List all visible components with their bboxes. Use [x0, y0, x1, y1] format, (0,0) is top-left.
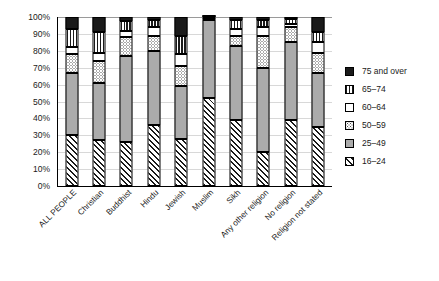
bar-segment	[65, 29, 78, 47]
bar-segment	[65, 17, 78, 29]
bar-segment	[312, 17, 325, 32]
stacked-bar[interactable]	[230, 17, 243, 186]
bar-segment	[147, 51, 160, 125]
stacked-bar[interactable]	[93, 17, 106, 186]
bar-slot	[305, 17, 332, 186]
y-axis-tick-label: 100%	[28, 13, 50, 22]
stacked-bar[interactable]	[120, 17, 133, 186]
bar-segment	[93, 83, 106, 140]
legend-swatch-icon	[345, 139, 354, 148]
stacked-bar-chart: 0%10%20%30%40%50%60%70%80%90%100% ALL PE…	[0, 0, 439, 281]
bar-segment	[284, 24, 297, 27]
legend-item[interactable]: 50–59	[345, 116, 439, 134]
stacked-bar[interactable]	[284, 17, 297, 186]
bar-segment	[312, 32, 325, 42]
bar-segment	[93, 53, 106, 61]
legend-item-label: 16–24	[362, 157, 386, 166]
bar-segment	[284, 19, 297, 24]
bar-segment	[65, 73, 78, 136]
y-axis-tick-label: 30%	[33, 131, 50, 140]
stacked-bar[interactable]	[65, 17, 78, 186]
stacked-bar[interactable]	[147, 17, 160, 186]
y-axis-tick-label: 90%	[33, 30, 50, 39]
bar-segment	[93, 61, 106, 83]
bar-segment	[312, 127, 325, 186]
y-axis-tick-label: 20%	[33, 148, 50, 157]
bar-segment	[175, 36, 188, 55]
y-axis-tick-label: 50%	[33, 97, 50, 106]
bar-slot	[250, 17, 277, 186]
x-axis: ALL PEOPLEChristianBuddhistHinduJewishMu…	[58, 188, 332, 280]
bar-segment	[147, 20, 160, 28]
legend-item[interactable]: 16–24	[345, 152, 439, 170]
stacked-bar[interactable]	[175, 17, 188, 186]
bar-segment	[312, 53, 325, 73]
legend-item-label: 25–49	[362, 139, 386, 148]
bar-segment	[202, 20, 215, 98]
bar-segment	[202, 15, 215, 17]
bar-segment	[257, 27, 270, 35]
bar-segment	[175, 66, 188, 86]
x-axis-tick-label: ALL PEOPLE	[0, 188, 78, 281]
bar-segment	[284, 27, 297, 42]
bar-segment	[65, 47, 78, 55]
bar-segment	[284, 120, 297, 186]
bar-slot	[85, 17, 112, 186]
legend-swatch-icon	[345, 85, 354, 94]
bar-segment	[65, 135, 78, 186]
bar-slot	[140, 17, 167, 186]
legend-swatch-icon	[345, 157, 354, 166]
bar-segment	[202, 98, 215, 186]
legend-item-label: 50–59	[362, 121, 386, 130]
stacked-bar[interactable]	[257, 17, 270, 186]
stacked-bar[interactable]	[202, 17, 215, 186]
legend-item[interactable]: 75 and over	[345, 62, 439, 80]
bar-segment	[257, 68, 270, 153]
chart-legend: 75 and over65–7460–6450–5925–4916–24	[345, 62, 439, 170]
bar-segment	[120, 142, 133, 186]
bar-segment	[93, 140, 106, 186]
bar-segment	[257, 20, 270, 28]
legend-item[interactable]: 25–49	[345, 134, 439, 152]
legend-swatch-icon	[345, 67, 354, 76]
bar-segment	[147, 125, 160, 186]
bar-segment	[65, 54, 78, 73]
bar-segment	[230, 29, 243, 36]
bar-segment	[147, 36, 160, 51]
y-axis-tick-label: 80%	[33, 47, 50, 56]
bar-segment	[312, 42, 325, 52]
bar-segment	[230, 17, 243, 20]
bar-group	[58, 17, 332, 186]
bar-segment	[120, 21, 133, 30]
stacked-bar[interactable]	[312, 17, 325, 186]
legend-item[interactable]: 65–74	[345, 80, 439, 98]
y-axis: 0%10%20%30%40%50%60%70%80%90%100%	[0, 17, 55, 187]
bar-slot	[277, 17, 304, 186]
bar-segment	[120, 37, 133, 56]
bar-segment	[147, 17, 160, 20]
bar-segment	[312, 73, 325, 127]
bar-segment	[175, 17, 188, 36]
legend-item-label: 65–74	[362, 85, 386, 94]
bar-segment	[284, 17, 297, 19]
bar-segment	[257, 17, 270, 20]
y-axis-tick-label: 40%	[33, 114, 50, 123]
bar-slot	[168, 17, 195, 186]
bar-segment	[175, 86, 188, 138]
legend-item[interactable]: 60–64	[345, 98, 439, 116]
bar-slot	[58, 17, 85, 186]
bar-segment	[147, 27, 160, 35]
y-axis-tick-label: 60%	[33, 80, 50, 89]
bar-segment	[230, 120, 243, 186]
legend-swatch-icon	[345, 121, 354, 130]
y-axis-tick-label: 0%	[38, 182, 50, 191]
bar-segment	[257, 152, 270, 186]
bar-segment	[93, 17, 106, 32]
bar-segment	[284, 42, 297, 120]
bar-slot	[195, 17, 222, 186]
bar-segment	[230, 20, 243, 29]
legend-item-label: 75 and over	[362, 67, 407, 76]
legend-swatch-icon	[345, 103, 354, 112]
bar-slot	[113, 17, 140, 186]
bar-segment	[120, 31, 133, 38]
